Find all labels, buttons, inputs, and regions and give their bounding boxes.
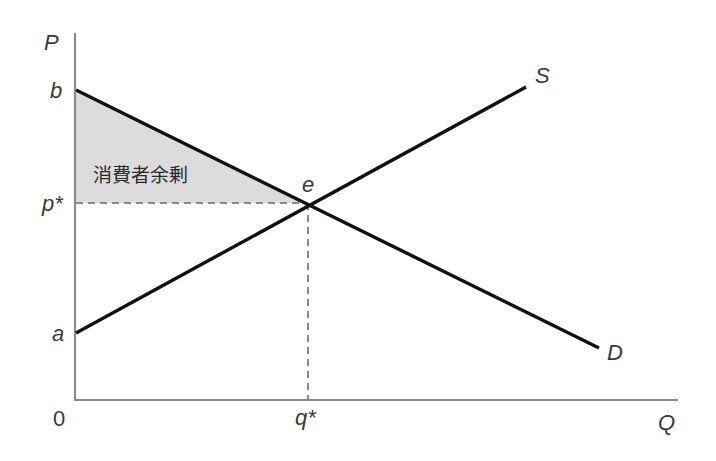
a-label: a bbox=[52, 321, 64, 346]
supply-curve-label: S bbox=[535, 63, 550, 88]
price-axis-label: P bbox=[44, 30, 59, 55]
origin-label: 0 bbox=[53, 406, 65, 431]
quantity-axis-label: Q bbox=[658, 410, 675, 435]
demand-curve bbox=[76, 90, 599, 348]
q-star-label: q* bbox=[295, 405, 317, 430]
equilibrium-label: e bbox=[302, 172, 314, 197]
supply-demand-diagram: P Q 0 b p* a q* S D e 消費者余剰 bbox=[0, 0, 716, 461]
b-label: b bbox=[50, 78, 62, 103]
consumer-surplus-label: 消費者余剰 bbox=[93, 164, 188, 186]
p-star-label: p* bbox=[41, 191, 64, 216]
demand-curve-label: D bbox=[607, 340, 623, 365]
